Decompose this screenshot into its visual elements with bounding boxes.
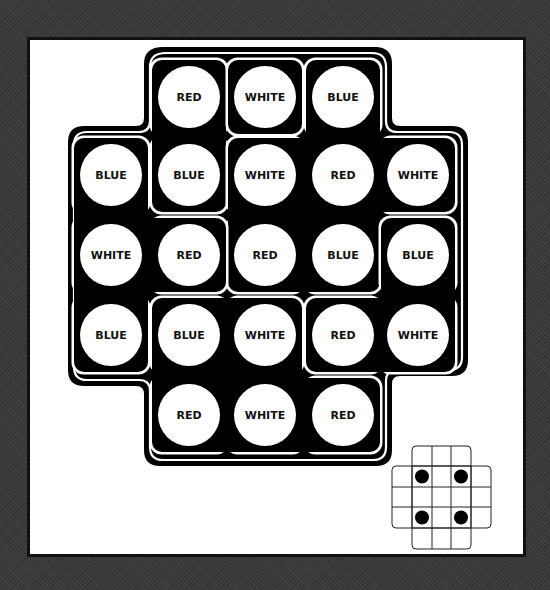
peg-label: BLUE <box>402 249 433 262</box>
peg-red[interactable]: RED <box>312 384 374 446</box>
peg-red[interactable]: RED <box>158 224 220 286</box>
peg-red[interactable]: RED <box>158 384 220 446</box>
peg-white[interactable]: WHITE <box>387 304 449 366</box>
peg-label: BLUE <box>173 169 204 182</box>
peg-label: BLUE <box>327 249 358 262</box>
peg-white[interactable]: WHITE <box>80 224 142 286</box>
peg-label: RED <box>330 409 355 422</box>
peg-white[interactable]: WHITE <box>387 144 449 206</box>
peg-label: WHITE <box>245 169 285 182</box>
puzzle-board: REDBLUEWHITEBLUEWHITEREDWHITEREDBLUEBLUE… <box>0 0 550 590</box>
peg-blue[interactable]: BLUE <box>158 144 220 206</box>
peg-blue[interactable]: BLUE <box>158 304 220 366</box>
peg-red[interactable]: RED <box>312 144 374 206</box>
legend-dot <box>454 470 468 484</box>
peg-white[interactable]: WHITE <box>234 66 296 128</box>
peg-label: WHITE <box>245 329 285 342</box>
peg-label: RED <box>330 169 355 182</box>
peg-label: RED <box>176 91 201 104</box>
puzzle-piece[interactable]: REDBLUE <box>150 58 229 215</box>
peg-label: WHITE <box>398 169 438 182</box>
peg-label: WHITE <box>398 329 438 342</box>
peg-blue[interactable]: BLUE <box>80 304 142 366</box>
peg-label: BLUE <box>95 329 126 342</box>
peg-label: RED <box>330 329 355 342</box>
legend-dot <box>415 470 429 484</box>
peg-label: BLUE <box>95 169 126 182</box>
peg-label: BLUE <box>173 329 204 342</box>
peg-white[interactable]: WHITE <box>234 144 296 206</box>
peg-label: WHITE <box>91 249 131 262</box>
peg-label: WHITE <box>245 91 285 104</box>
peg-label: WHITE <box>245 409 285 422</box>
peg-red[interactable]: RED <box>158 66 220 128</box>
peg-red[interactable]: RED <box>234 224 296 286</box>
peg-red[interactable]: RED <box>312 304 374 366</box>
peg-blue[interactable]: BLUE <box>312 224 374 286</box>
peg-label: RED <box>252 249 277 262</box>
puzzle-piece[interactable]: WHITE <box>226 58 305 137</box>
peg-label: RED <box>176 249 201 262</box>
peg-label: BLUE <box>327 91 358 104</box>
peg-blue[interactable]: BLUE <box>312 66 374 128</box>
peg-blue[interactable]: BLUE <box>80 144 142 206</box>
peg-label: RED <box>176 409 201 422</box>
legend-dot <box>454 511 468 525</box>
peg-blue[interactable]: BLUE <box>387 224 449 286</box>
solution-legend-diagram <box>392 446 491 549</box>
peg-white[interactable]: WHITE <box>234 304 296 366</box>
peg-white[interactable]: WHITE <box>234 384 296 446</box>
legend-dot <box>415 511 429 525</box>
